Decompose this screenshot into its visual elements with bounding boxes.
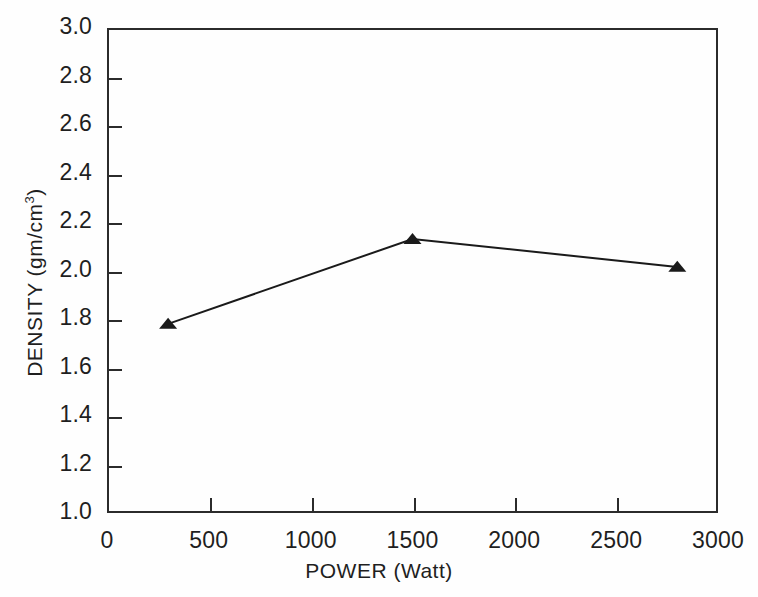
y-tick-label: 3.0 bbox=[30, 13, 92, 40]
plot-area bbox=[107, 28, 718, 513]
x-tick-label: 500 bbox=[164, 527, 254, 554]
y-tick-mark bbox=[109, 78, 122, 80]
x-tick-mark bbox=[312, 498, 314, 511]
y-axis-title-suffix: ) bbox=[23, 188, 46, 196]
y-tick-label: 2.4 bbox=[30, 159, 92, 186]
x-tick-label: 3000 bbox=[673, 527, 758, 554]
y-tick-mark bbox=[109, 223, 122, 225]
y-axis-title-exponent: 3 bbox=[22, 196, 37, 204]
y-tick-label: 2.6 bbox=[30, 110, 92, 137]
y-tick-label: 1.6 bbox=[30, 353, 92, 380]
chart-figure: POWER (Watt) DENSITY (gm/cm3) 1.01.21.41… bbox=[0, 0, 758, 597]
x-axis-title: POWER (Watt) bbox=[0, 559, 758, 583]
x-tick-label: 2500 bbox=[571, 527, 661, 554]
y-tick-label: 1.0 bbox=[30, 498, 92, 525]
y-tick-label: 2.2 bbox=[30, 207, 92, 234]
x-tick-label: 0 bbox=[62, 527, 152, 554]
y-tick-mark bbox=[109, 272, 122, 274]
y-tick-mark bbox=[109, 417, 122, 419]
x-tick-mark bbox=[617, 498, 619, 511]
y-tick-mark bbox=[109, 126, 122, 128]
x-tick-label: 1500 bbox=[368, 527, 458, 554]
x-tick-label: 1000 bbox=[266, 527, 356, 554]
x-tick-mark bbox=[414, 498, 416, 511]
y-tick-label: 1.4 bbox=[30, 401, 92, 428]
y-tick-mark bbox=[109, 466, 122, 468]
y-tick-label: 2.8 bbox=[30, 62, 92, 89]
x-tick-mark bbox=[210, 498, 212, 511]
y-tick-label: 2.0 bbox=[30, 256, 92, 283]
x-tick-mark bbox=[515, 498, 517, 511]
x-tick-label: 2000 bbox=[469, 527, 559, 554]
y-tick-mark bbox=[109, 369, 122, 371]
y-tick-mark bbox=[109, 175, 122, 177]
y-tick-label: 1.2 bbox=[30, 450, 92, 477]
y-tick-label: 1.8 bbox=[30, 304, 92, 331]
y-tick-mark bbox=[109, 320, 122, 322]
